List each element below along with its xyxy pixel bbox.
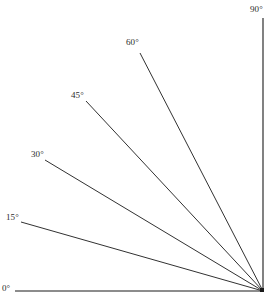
ray-30-line — [45, 160, 263, 291]
ray-90-label: 90° — [250, 5, 263, 14]
ray-45-line — [86, 101, 263, 291]
ray-60-line — [140, 53, 263, 291]
ray-0-label: 0° — [2, 284, 10, 293]
ray-60-label: 60° — [126, 38, 139, 47]
ray-45-label: 45° — [71, 91, 84, 100]
ray-group — [15, 18, 263, 291]
ray-15-line — [21, 222, 263, 291]
angle-diagram-canvas: 0°15°30°45°60°90° — [0, 0, 271, 304]
ray-15-label: 15° — [6, 213, 19, 222]
ray-30-label: 30° — [31, 150, 44, 159]
vertex-marker — [260, 288, 264, 292]
